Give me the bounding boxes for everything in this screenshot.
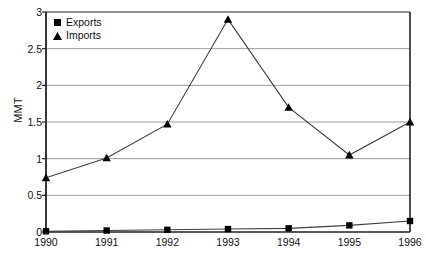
legend-label-imports: Imports xyxy=(66,29,101,42)
x-tick-label: 1992 xyxy=(145,236,189,248)
x-tick-label: 1995 xyxy=(327,236,371,248)
x-tick-label: 1994 xyxy=(267,236,311,248)
triangle-marker-icon xyxy=(52,32,63,40)
legend-label-exports: Exports xyxy=(66,16,102,29)
x-tick-label: 1991 xyxy=(85,236,129,248)
x-tick-label: 1993 xyxy=(206,236,250,248)
x-tick-label: 1990 xyxy=(24,236,68,248)
chart-figure: MMT 00.511.522.53 1990199119921993199419… xyxy=(0,0,426,257)
square-marker-icon xyxy=(52,19,63,26)
x-tick-label: 1996 xyxy=(388,236,426,248)
legend-item-imports: Imports xyxy=(52,29,102,42)
legend-item-exports: Exports xyxy=(52,16,102,29)
chart-legend: Exports Imports xyxy=(48,14,108,45)
